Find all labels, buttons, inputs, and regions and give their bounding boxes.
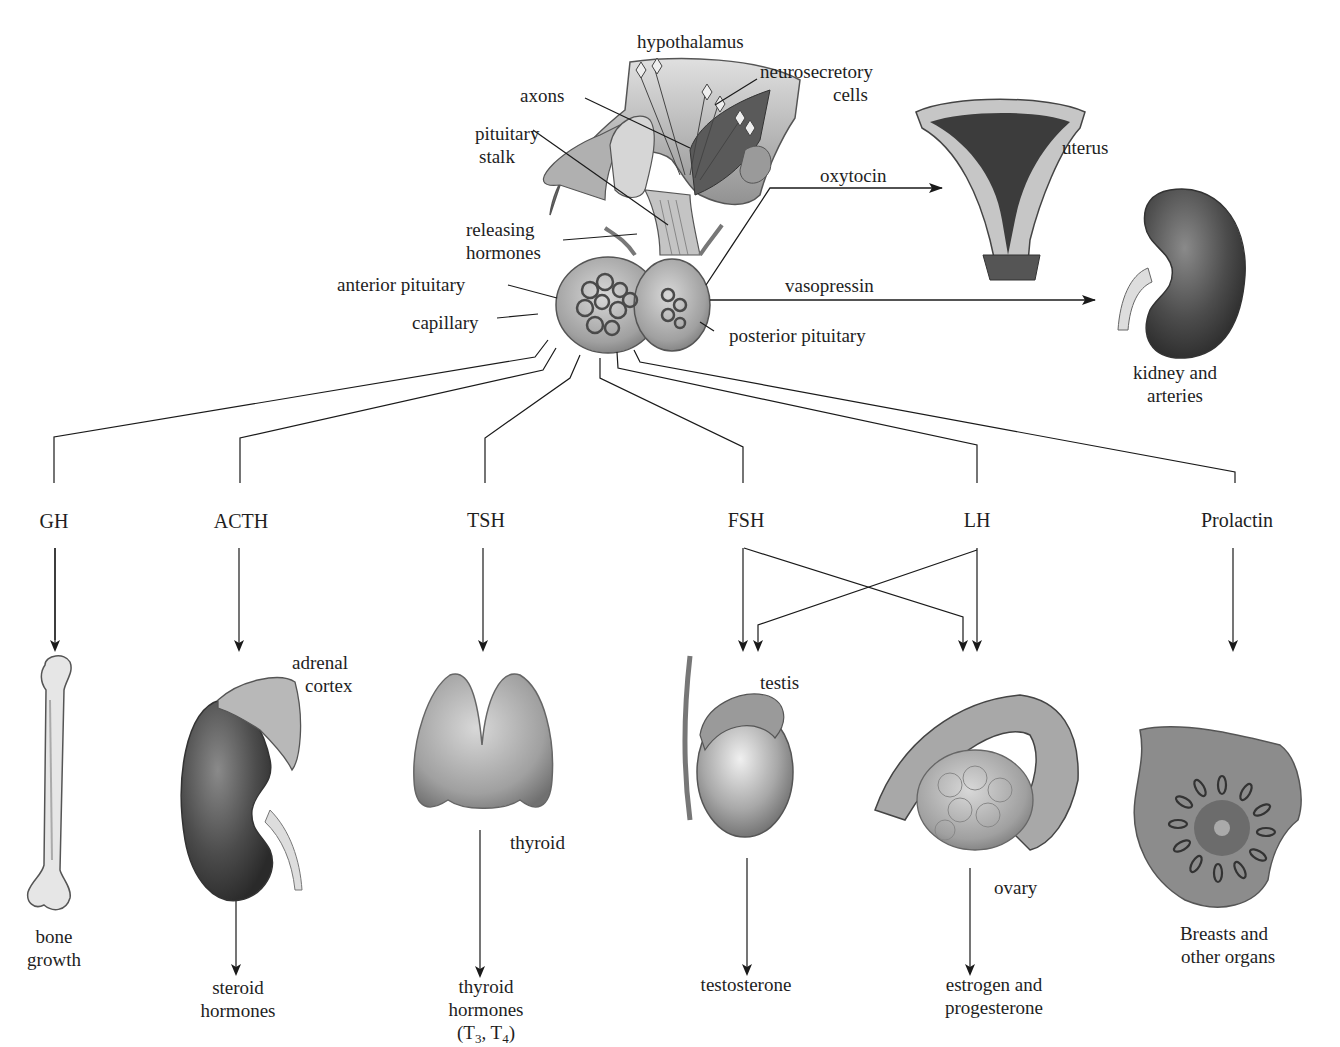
hypothalamus-illustration xyxy=(543,58,800,353)
label-pituitary-stalk-2: stalk xyxy=(479,145,515,168)
label-posterior-pituitary: posterior pituitary xyxy=(729,324,866,347)
breast-illustration xyxy=(1134,727,1301,907)
hormone-gh: GH xyxy=(40,509,69,533)
kidney-illustration xyxy=(1118,189,1245,358)
label-bone: bone xyxy=(36,925,73,948)
label-testis: testis xyxy=(760,671,799,694)
label-estrogen: estrogen and xyxy=(946,973,1043,996)
label-cells: cells xyxy=(833,83,868,106)
thyroid-illustration xyxy=(414,674,553,808)
hormone-prolactin: Prolactin xyxy=(1201,508,1273,532)
label-anterior-pituitary: anterior pituitary xyxy=(337,273,465,296)
label-thyroid-h1: thyroid xyxy=(459,975,514,998)
diagram-canvas xyxy=(0,0,1340,1047)
label-adrenal: adrenal xyxy=(292,651,348,674)
label-uterus: uterus xyxy=(1062,136,1108,159)
label-capillary: capillary xyxy=(412,311,478,334)
label-breasts: Breasts and xyxy=(1180,922,1268,945)
label-hormones: hormones xyxy=(466,241,541,264)
label-neurosecretory: neurosecretory xyxy=(760,60,873,83)
label-thyroid: thyroid xyxy=(510,831,565,854)
label-steroid: steroid xyxy=(212,976,264,999)
label-cortex: cortex xyxy=(305,674,352,697)
label-thyroid-h2: hormones xyxy=(449,998,524,1021)
label-arteries: arteries xyxy=(1147,384,1203,407)
label-ovary: ovary xyxy=(994,876,1037,899)
bone-illustration xyxy=(28,656,71,910)
hormone-acth: ACTH xyxy=(214,509,268,533)
ovary-illustration xyxy=(875,695,1078,850)
uterus-illustration xyxy=(916,99,1085,280)
label-vasopressin: vasopressin xyxy=(785,274,874,297)
label-testosterone: testosterone xyxy=(701,973,792,996)
hormone-fsh: FSH xyxy=(728,508,765,532)
anterior-branch-lines xyxy=(54,340,1235,483)
label-t3-t4: (T3, T4) xyxy=(457,1021,515,1044)
label-releasing: releasing xyxy=(466,218,535,241)
label-hypothalamus: hypothalamus xyxy=(637,30,744,53)
label-pituitary-stalk-1: pituitary xyxy=(475,122,539,145)
label-progesterone: progesterone xyxy=(945,996,1043,1019)
label-steroid-hormones: hormones xyxy=(201,999,276,1022)
label-growth: growth xyxy=(27,948,81,971)
hormone-tsh: TSH xyxy=(467,508,505,532)
label-oxytocin: oxytocin xyxy=(820,164,887,187)
label-kidney-and: kidney and xyxy=(1133,361,1217,384)
label-axons: axons xyxy=(520,84,564,107)
label-other-organs: other organs xyxy=(1181,945,1275,968)
adrenal-kidney-illustration xyxy=(181,678,302,901)
hormone-lh: LH xyxy=(964,508,991,532)
